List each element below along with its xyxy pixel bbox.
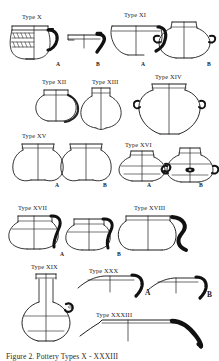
variant-label-xvii-a: A — [60, 252, 64, 258]
vessel-type-xiv — [134, 84, 206, 134]
variant-label-xxx-a: A — [145, 289, 150, 296]
variant-label-xvi-a: A — [147, 183, 151, 189]
label-type-xviii: Type XVIII — [134, 205, 165, 211]
label-type-xvii: Type XVII — [18, 205, 47, 211]
label-type-xv: Type XV — [22, 133, 47, 139]
vessel-type-xxx-a — [78, 275, 142, 296]
variant-label-xxx-b: B — [207, 291, 212, 298]
label-type-xii: Type XII — [42, 79, 66, 85]
vessel-type-xv-a — [13, 144, 63, 181]
vessel-type-xiii — [81, 88, 121, 130]
label-type-xi: Type XI — [124, 12, 146, 18]
variant-label-xvii-b: B — [117, 252, 121, 258]
label-type-xiii: Type XIII — [92, 79, 119, 85]
vessel-type-x-b — [68, 33, 104, 52]
variant-label-xv-b: B — [103, 183, 107, 189]
vessel-type-xix — [22, 274, 73, 341]
figure-caption: Figure 2. Pottery Types X - XXXIII — [6, 352, 118, 361]
variant-label-xi-a: A — [141, 62, 145, 68]
label-type-xvi: Type XVI — [125, 142, 152, 148]
label-type-x: Type X — [22, 14, 42, 20]
variant-label-x-a: A — [56, 62, 60, 68]
vessel-type-xv-b — [61, 144, 111, 181]
vessel-type-xxxiii — [80, 320, 201, 347]
variant-label-xvi-b: B — [199, 183, 203, 189]
label-type-xiv: Type XIV — [155, 74, 182, 80]
vessel-type-xxx-b — [148, 277, 206, 298]
variant-label-x-b: B — [96, 62, 100, 68]
vessel-type-xvii-a — [9, 216, 60, 249]
vessel-type-xviii — [118, 216, 186, 250]
pottery-typology-plate: Type X Type XI Type XII Type XIII Type X… — [0, 0, 219, 361]
variant-label-xv-a: A — [55, 183, 59, 189]
pottery-drawing-canvas — [0, 0, 219, 361]
vessel-type-xii — [36, 90, 78, 122]
label-type-xxx: Type XXX — [89, 268, 118, 274]
vessel-type-xi-a — [111, 26, 166, 55]
variant-label-xi-b: B — [207, 62, 211, 68]
label-type-xxxiii: Type XXXIII — [96, 312, 132, 318]
vessel-type-x-a — [10, 26, 57, 59]
label-type-xix: Type XIX — [31, 264, 58, 270]
vessel-type-xvii-b — [66, 219, 112, 250]
